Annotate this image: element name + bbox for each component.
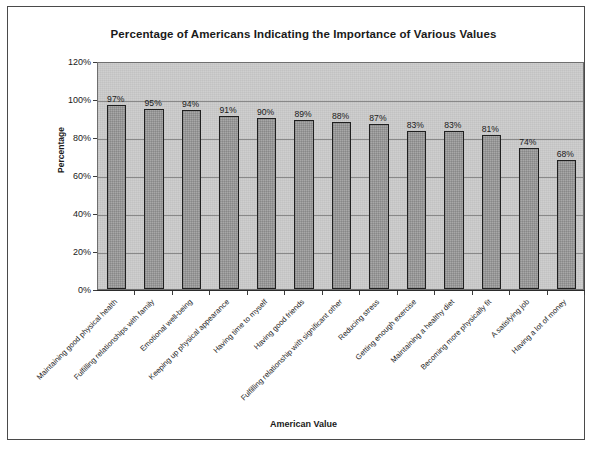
- bar-value-label: 83%: [435, 120, 471, 130]
- bar[interactable]: [407, 131, 426, 289]
- y-tick-mark: [93, 62, 97, 63]
- x-tick-mark: [547, 291, 548, 295]
- bar-value-label: 74%: [510, 137, 546, 147]
- x-tick-mark: [322, 291, 323, 295]
- bar[interactable]: [519, 148, 538, 289]
- bar-value-label: 91%: [210, 105, 246, 115]
- bar[interactable]: [257, 118, 276, 289]
- y-tick-mark: [93, 176, 97, 177]
- x-tick-mark: [509, 291, 510, 295]
- bar-value-label: 90%: [248, 107, 284, 117]
- bar-value-label: 97%: [98, 94, 134, 104]
- bar[interactable]: [107, 105, 126, 289]
- bar[interactable]: [219, 116, 238, 289]
- x-tick-mark: [397, 291, 398, 295]
- y-tick-label: 100%: [51, 95, 91, 105]
- y-tick-label: 60%: [51, 171, 91, 181]
- chart-title: Percentage of Americans Indicating the I…: [0, 28, 607, 40]
- bar[interactable]: [444, 131, 463, 289]
- x-tick-mark: [359, 291, 360, 295]
- bar[interactable]: [144, 109, 163, 290]
- bar-value-label: 89%: [285, 109, 321, 119]
- y-tick-label: 40%: [51, 209, 91, 219]
- bar[interactable]: [294, 120, 313, 289]
- bar[interactable]: [332, 122, 351, 289]
- x-axis-line: [97, 290, 585, 291]
- x-tick-mark: [584, 291, 585, 295]
- y-tick-mark: [93, 214, 97, 215]
- bar[interactable]: [182, 110, 201, 289]
- x-tick-mark: [172, 291, 173, 295]
- bar-value-label: 95%: [135, 98, 171, 108]
- y-tick-mark: [93, 100, 97, 101]
- y-tick-mark: [93, 252, 97, 253]
- y-tick-label: 20%: [51, 247, 91, 257]
- x-tick-mark: [247, 291, 248, 295]
- bar-value-label: 81%: [472, 124, 508, 134]
- bar[interactable]: [482, 135, 501, 289]
- y-tick-label: 0%: [51, 285, 91, 295]
- bar[interactable]: [369, 124, 388, 289]
- bar-value-label: 88%: [323, 111, 359, 121]
- x-tick-mark: [134, 291, 135, 295]
- bar-value-label: 83%: [397, 120, 433, 130]
- y-tick-label: 80%: [51, 133, 91, 143]
- x-tick-mark: [284, 291, 285, 295]
- bar-value-label: 68%: [547, 149, 583, 159]
- x-tick-mark: [209, 291, 210, 295]
- bar-value-label: 87%: [360, 113, 396, 123]
- bar[interactable]: [557, 160, 576, 289]
- plot-area: [97, 62, 584, 290]
- x-tick-mark: [472, 291, 473, 295]
- x-tick-mark: [434, 291, 435, 295]
- y-tick-label: 120%: [51, 57, 91, 67]
- x-axis-title: American Value: [0, 419, 607, 429]
- y-tick-mark: [93, 138, 97, 139]
- bar-value-label: 94%: [173, 99, 209, 109]
